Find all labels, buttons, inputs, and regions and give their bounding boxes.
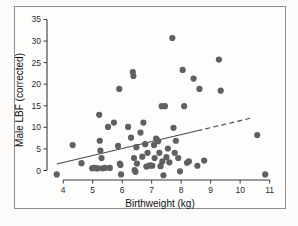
y-axis: 05101520253035 (32, 14, 47, 175)
x-axis-title: Birthweight (kg) (125, 198, 194, 209)
data-point (216, 56, 222, 62)
data-point (97, 138, 103, 144)
data-point (125, 124, 131, 130)
data-point (78, 160, 84, 166)
y-axis-title: Male LBF (corrected) (14, 53, 25, 147)
x-tick-label: 10 (235, 185, 245, 195)
data-point (116, 86, 122, 92)
data-point (149, 163, 155, 169)
x-tick-label: 6 (120, 185, 125, 195)
data-point (137, 129, 143, 135)
data-point (181, 103, 187, 109)
data-point (96, 112, 102, 118)
x-tick-label: 11 (265, 185, 274, 195)
x-tick-label: 5 (90, 185, 95, 195)
y-tick-label: 30 (32, 36, 42, 46)
data-point (194, 163, 200, 169)
y-tick-label: 25 (32, 58, 42, 68)
y-tick-label: 15 (32, 101, 42, 111)
data-point (180, 67, 186, 73)
data-point (160, 172, 166, 178)
data-point (133, 144, 139, 150)
data-point (131, 155, 137, 161)
data-point (128, 135, 134, 141)
data-point (111, 120, 117, 126)
trendline-dashed (197, 118, 252, 131)
x-tick-label: 4 (61, 185, 66, 195)
data-point (115, 143, 121, 149)
data-point (166, 159, 172, 165)
x-tick-label: 9 (208, 185, 213, 195)
data-point (98, 155, 104, 161)
y-tick-label: 35 (32, 14, 42, 24)
data-point (107, 165, 113, 171)
data-point (54, 171, 60, 177)
data-point (165, 145, 171, 151)
data-point (170, 125, 176, 131)
data-point (196, 86, 202, 92)
data-point (218, 88, 224, 94)
data-point (132, 169, 138, 175)
data-point (156, 150, 162, 156)
y-tick-label: 10 (32, 122, 42, 132)
data-point (175, 155, 181, 161)
data-point (262, 171, 268, 177)
figure-container: 05101520253035 4567891011 Birthweight (k… (0, 0, 298, 226)
data-point (142, 141, 148, 147)
data-point (144, 150, 150, 156)
data-point (130, 73, 136, 79)
data-point (190, 75, 196, 81)
data-point (139, 154, 145, 160)
data-point (201, 157, 207, 163)
x-tick-label: 8 (179, 185, 184, 195)
y-tick-label: 0 (36, 166, 41, 176)
data-point (172, 150, 178, 156)
y-tick-label: 20 (32, 79, 42, 89)
data-point (173, 138, 179, 144)
data-point (134, 161, 140, 167)
data-point (152, 155, 158, 161)
x-axis: 4567891011 (61, 180, 274, 195)
x-tick-label: 7 (149, 185, 154, 195)
data-point (97, 148, 103, 154)
data-point (254, 132, 260, 138)
data-point (162, 103, 168, 109)
data-point (117, 162, 123, 168)
data-point (163, 154, 169, 160)
data-point (70, 142, 76, 148)
data-point (118, 171, 124, 177)
data-point (186, 158, 192, 164)
data-point (177, 168, 183, 174)
data-point (140, 120, 146, 126)
data-point (155, 138, 161, 144)
y-tick-label: 5 (36, 144, 41, 154)
scatter-plot: 05101520253035 4567891011 Birthweight (k… (0, 0, 298, 226)
data-point (105, 124, 111, 130)
data-point (169, 35, 175, 41)
